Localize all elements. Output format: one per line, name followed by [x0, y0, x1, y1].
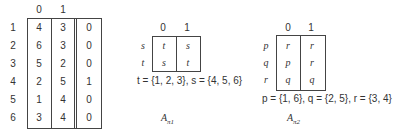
table-cell: q — [306, 74, 318, 86]
table-cell: 1 — [83, 76, 95, 88]
col-header-1: 1 — [181, 22, 193, 34]
table-cell: r — [282, 40, 294, 52]
table-cell: t — [158, 40, 170, 52]
row-label: 1 — [8, 22, 18, 34]
table-cell: 3 — [57, 40, 69, 52]
table-cell: 3 — [33, 112, 45, 124]
table-cell: r — [306, 57, 318, 69]
row-label: p — [261, 40, 271, 52]
divider — [300, 35, 301, 91]
col-header-1: 1 — [57, 4, 69, 16]
table-cell: 2 — [57, 58, 69, 70]
table-cell: 0 — [83, 112, 95, 124]
pi1-caption: Aπ1 — [161, 112, 174, 126]
pi1-partition-legend: t = {1, 2, 3}, s = {4, 5, 6} — [137, 75, 242, 87]
table-cell: 0 — [83, 58, 95, 70]
table-cell: 5 — [57, 76, 69, 88]
row-label: 6 — [8, 112, 18, 124]
divider — [74, 18, 75, 129]
table-cell: 1 — [33, 94, 45, 106]
col-header-0: 0 — [33, 4, 45, 16]
row-label: s — [138, 40, 148, 52]
table-cell: 4 — [57, 94, 69, 106]
table-cell: 0 — [83, 94, 95, 106]
table-cell: 5 — [33, 58, 45, 70]
table-cell: 6 — [33, 40, 45, 52]
table-cell: 0 — [83, 40, 95, 52]
col-header-0: 0 — [157, 22, 169, 34]
col-header-1: 1 — [305, 22, 317, 34]
row-label: 5 — [8, 94, 18, 106]
row-label: t — [138, 57, 148, 69]
table-cell: 2 — [33, 76, 45, 88]
pi2-caption: Aπ2 — [287, 112, 300, 126]
table-cell: 4 — [57, 112, 69, 124]
row-label: 3 — [8, 58, 18, 70]
table-cell: s — [158, 57, 170, 69]
row-label: 2 — [8, 40, 18, 52]
table-cell: 0 — [83, 22, 95, 34]
table-cell: 4 — [33, 22, 45, 34]
divider — [76, 18, 77, 129]
col-header-0: 0 — [282, 22, 294, 34]
table-cell: q — [282, 74, 294, 86]
pi2-partition-legend: p = {1, 6}, q = {2, 5}, r = {3, 4} — [262, 93, 392, 105]
row-label: r — [261, 74, 271, 86]
row-label: 4 — [8, 76, 18, 88]
table-cell: 3 — [57, 22, 69, 34]
divider — [51, 18, 52, 129]
row-label: q — [261, 57, 271, 69]
table-cell: p — [282, 57, 294, 69]
table-cell: s — [182, 40, 194, 52]
table-cell: r — [306, 40, 318, 52]
table-cell: t — [182, 57, 194, 69]
divider — [176, 36, 177, 72]
